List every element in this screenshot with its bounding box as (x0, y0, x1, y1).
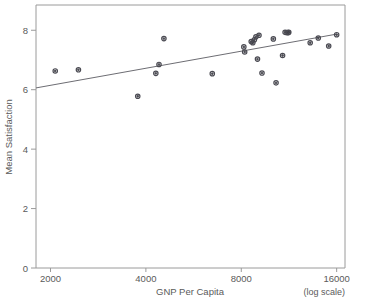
x-axis-ticks: 20004000800016000 (40, 268, 350, 284)
y-axis-title: Mean Satisfaction (3, 99, 14, 175)
data-point-center (309, 42, 311, 44)
data-point-center (275, 82, 277, 84)
log-scale-note: (log scale) (303, 287, 345, 297)
chart-canvas: 02468 20004000800016000 GNP Per Capita (… (0, 0, 370, 305)
plot-frame (36, 5, 345, 268)
y-tick-label: 0 (23, 263, 28, 274)
y-tick-label: 6 (23, 84, 28, 95)
data-points (53, 30, 339, 98)
data-point-center (243, 46, 245, 48)
data-point-center (244, 51, 246, 53)
x-tick-label: 4000 (135, 273, 156, 284)
x-tick-label: 8000 (231, 273, 252, 284)
axis-frame-lines (36, 5, 345, 268)
data-point-center (336, 34, 338, 36)
data-point-center (78, 69, 80, 71)
y-tick-label: 8 (23, 25, 28, 36)
data-point-center (163, 38, 165, 40)
data-point-center (258, 34, 260, 36)
scatter-chart: 02468 20004000800016000 GNP Per Capita (… (0, 0, 370, 305)
data-point-center (288, 31, 290, 33)
data-point-center (54, 70, 56, 72)
data-point-center (328, 45, 330, 47)
data-point-center (272, 38, 274, 40)
x-tick-label: 2000 (40, 273, 61, 284)
data-point-center (155, 72, 157, 74)
x-tick-label: 16000 (323, 273, 349, 284)
data-point-center (137, 95, 139, 97)
data-point-center (211, 73, 213, 75)
regression-line (36, 34, 337, 88)
data-point-center (261, 72, 263, 74)
y-tick-label: 2 (23, 203, 28, 214)
data-point-center (158, 64, 160, 66)
data-point-center (257, 58, 259, 60)
x-axis-title: GNP Per Capita (156, 286, 225, 297)
regression-line-segment (36, 34, 337, 88)
data-point-center (282, 55, 284, 57)
y-tick-label: 4 (23, 144, 28, 155)
data-point-center (317, 37, 319, 39)
y-axis-ticks: 02468 (23, 25, 36, 274)
